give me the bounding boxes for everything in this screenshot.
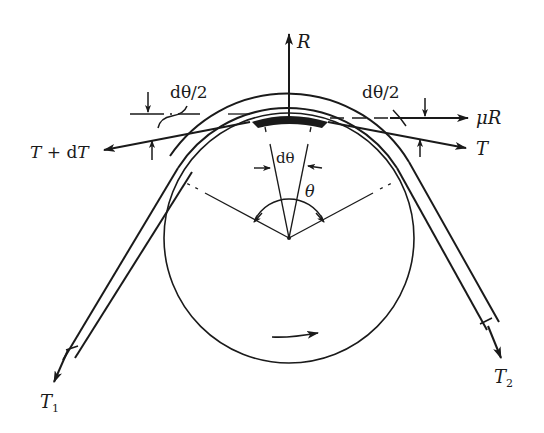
label-tension-left: T + dT bbox=[30, 142, 90, 162]
label-half-angle-left: dθ/2 bbox=[170, 82, 208, 102]
belt-element bbox=[252, 116, 328, 128]
label-normal-force: R bbox=[296, 31, 311, 52]
belt bbox=[63, 94, 499, 360]
label-element-angle: dθ bbox=[276, 149, 295, 167]
dtheta-arrow-right bbox=[308, 166, 322, 168]
label-half-angle-right: dθ/2 bbox=[362, 82, 400, 102]
tension-t2-arrow bbox=[488, 326, 501, 358]
half-angle-marks-left bbox=[148, 92, 187, 160]
half-angle-marks-right bbox=[393, 98, 425, 157]
rotation-arrow bbox=[272, 333, 318, 337]
label-tension-right: T bbox=[476, 138, 490, 159]
pulley-center-dot bbox=[287, 236, 291, 240]
tension-t1-arrow bbox=[54, 350, 68, 382]
belt-break-marks bbox=[66, 318, 492, 350]
label-friction-force: μR bbox=[476, 107, 501, 128]
label-wrap-angle: θ bbox=[305, 182, 315, 201]
label-tension-t2: T2 bbox=[494, 366, 513, 390]
theta-arc bbox=[255, 199, 323, 220]
belt-friction-diagram: R μR T + dT T dθ/2 dθ/2 dθ θ T1 T2 bbox=[0, 0, 544, 433]
radial-lines bbox=[186, 127, 392, 238]
label-tension-t1: T1 bbox=[40, 391, 59, 415]
